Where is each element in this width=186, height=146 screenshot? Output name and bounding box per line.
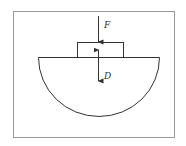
displacement-label: D xyxy=(103,71,111,81)
diagram-canvas: F D xyxy=(0,0,186,146)
force-label: F xyxy=(103,20,111,30)
block xyxy=(78,43,124,58)
